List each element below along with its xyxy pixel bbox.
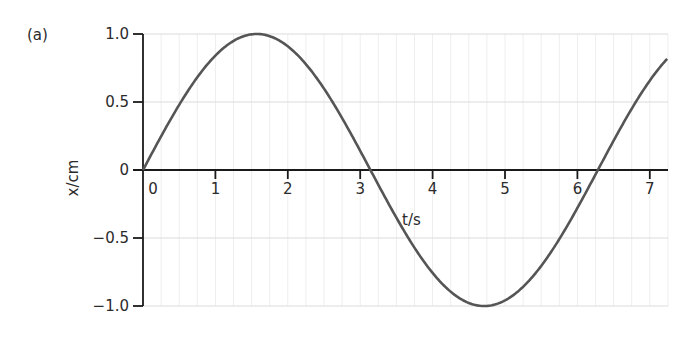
y-axis-label: x/cm: [64, 160, 82, 197]
x-tick-label: 0: [148, 180, 158, 198]
y-tick-label: 0.5: [105, 93, 129, 111]
x-tick-label: 2: [283, 180, 293, 198]
x-tick-label: 1: [211, 180, 221, 198]
axes: [133, 34, 668, 306]
x-tick-label: 3: [355, 180, 365, 198]
x-tick-label: 7: [645, 180, 655, 198]
panel-label: (a): [27, 26, 48, 44]
x-tick-label: 4: [428, 180, 438, 198]
x-tick-label: 6: [573, 180, 583, 198]
x-axis-label: t/s: [402, 211, 421, 229]
y-tick-label: −1.0: [93, 297, 129, 315]
x-tick-label: 5: [500, 180, 510, 198]
y-tick-label: 0: [119, 161, 129, 179]
y-tick-label: −0.5: [93, 229, 129, 247]
y-tick-label: 1.0: [105, 25, 129, 43]
displacement-time-chart: 1.00.50−0.5−1.001234567 (a) t/s x/cm: [0, 0, 691, 339]
